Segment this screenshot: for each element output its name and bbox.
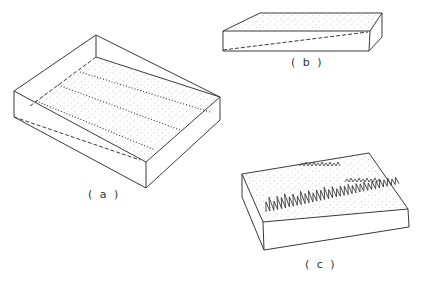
panel-b-slab <box>223 13 382 51</box>
panel-a-label: ( a ) <box>88 188 120 201</box>
panel-a-surface <box>36 57 220 162</box>
panel-b-surface <box>223 13 382 31</box>
panel-c-slab <box>242 153 409 250</box>
diagram-canvas <box>0 0 423 283</box>
panel-b-label: ( b ) <box>291 56 324 69</box>
panel-c-label: ( c ) <box>305 258 337 271</box>
panel-a-tray <box>14 35 220 188</box>
